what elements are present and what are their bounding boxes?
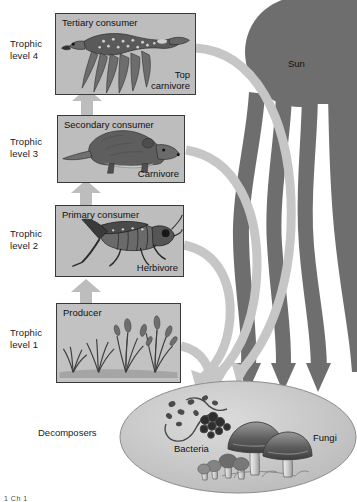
trophic-box-level-3[interactable]: Secondary consumer Carnivore: [57, 115, 185, 183]
figure-canvas: Trophic level 4 Trophic level 3 Trophic …: [0, 0, 357, 502]
trophic-box-level-3-role: Carnivore: [138, 168, 179, 179]
axis-label-level-2: Trophic level 2: [10, 228, 42, 251]
trophic-box-level-2[interactable]: Primary consumer Herbivore: [55, 205, 184, 277]
trophic-box-level-4-role: Top carnivore: [151, 69, 190, 91]
axis-label-level-2-line2: level 2: [10, 240, 42, 252]
footer-caption-fragment: 1 Ch 1: [4, 495, 28, 502]
trophic-box-level-3-caption: Secondary consumer: [64, 119, 154, 130]
axis-label-level-4-line2: level 4: [10, 50, 42, 62]
fungi-label: Fungi: [313, 432, 337, 443]
bacteria-label: Bacteria: [174, 443, 209, 454]
axis-label-level-1-line2: level 1: [10, 339, 42, 351]
sun-label: Sun: [288, 58, 305, 69]
transfer-arrow-2-to-3: [71, 180, 101, 208]
trophic-box-level-2-caption: Primary consumer: [62, 209, 139, 220]
trophic-box-level-1-caption: Producer: [63, 307, 102, 318]
trophic-box-level-2-role: Herbivore: [137, 262, 178, 273]
axis-label-level-2-line1: Trophic: [10, 228, 42, 240]
axis-label-level-4: Trophic level 4: [10, 38, 42, 61]
axis-label-level-4-line1: Trophic: [10, 38, 42, 50]
axis-label-level-1-line1: Trophic: [10, 327, 42, 339]
axis-label-level-3-line1: Trophic: [10, 136, 42, 148]
trophic-box-level-4-caption: Tertiary consumer: [62, 17, 138, 28]
decomposers-label: Decomposers: [38, 427, 97, 438]
axis-label-level-1: Trophic level 1: [10, 327, 42, 350]
axis-label-level-3: Trophic level 3: [10, 136, 42, 159]
trophic-box-level-1[interactable]: Producer: [56, 303, 181, 383]
axis-label-level-3-line2: level 3: [10, 148, 42, 160]
trophic-box-level-4[interactable]: Tertiary consumer Top carnivore: [55, 13, 196, 95]
